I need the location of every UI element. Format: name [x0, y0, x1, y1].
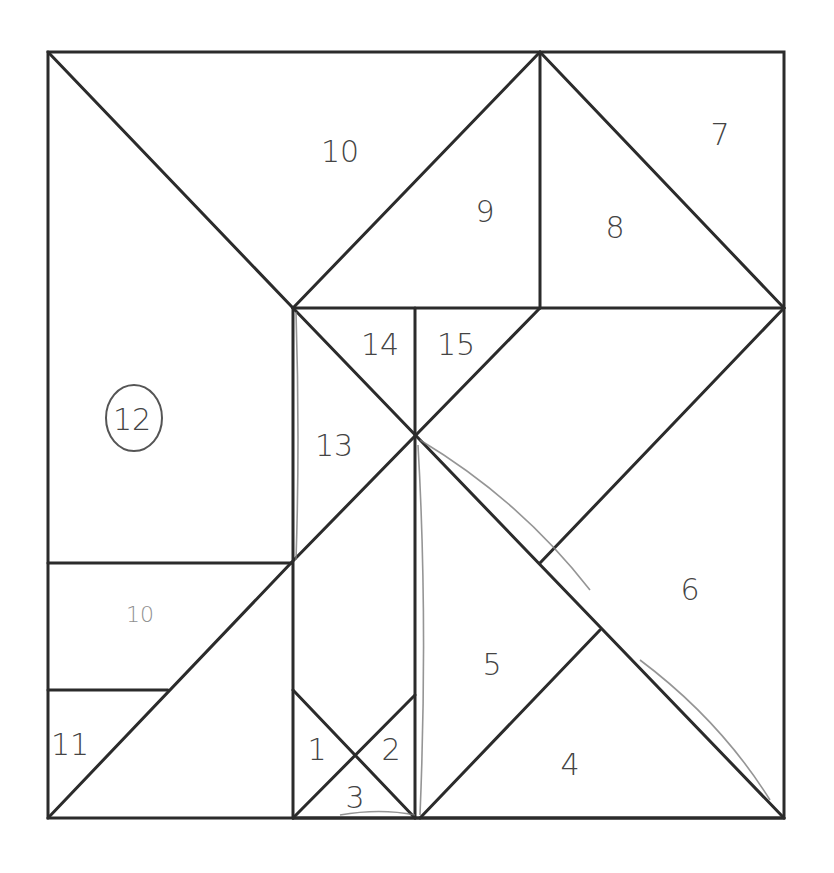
- piece-label-1: 1: [307, 732, 326, 767]
- piece-label-13: 13: [315, 428, 353, 463]
- pencil-trace-3: [420, 440, 590, 590]
- pencil-trace-1: [296, 312, 298, 560]
- piece-label-16: 10: [126, 602, 154, 627]
- line-diag-right: [540, 308, 784, 563]
- piece-label-6: 6: [680, 572, 699, 607]
- piece-label-9: 9: [475, 194, 494, 229]
- piece-label-11: 11: [51, 727, 89, 762]
- piece-label-8: 8: [605, 210, 624, 245]
- line-diag-9-10: [293, 52, 540, 308]
- piece-label-12: 12: [113, 402, 151, 437]
- piece-label-7: 7: [710, 117, 729, 152]
- piece-label-14: 14: [361, 327, 399, 362]
- pencil-trace-4: [640, 660, 770, 800]
- line-diag-topleft: [48, 52, 293, 308]
- piece-label-2: 2: [381, 732, 400, 767]
- piece-label-3: 3: [345, 780, 364, 815]
- line-diag-7-8: [540, 52, 784, 308]
- piece-label-4: 4: [560, 747, 579, 782]
- piece-label-10: 10: [321, 134, 359, 169]
- piece-label-5: 5: [482, 647, 501, 682]
- line-diag-4-5: [420, 630, 600, 818]
- pencil-trace-2: [418, 445, 424, 815]
- piece-label-15: 15: [437, 327, 475, 362]
- dissection-diagram: 12345678910111213141510: [0, 0, 834, 873]
